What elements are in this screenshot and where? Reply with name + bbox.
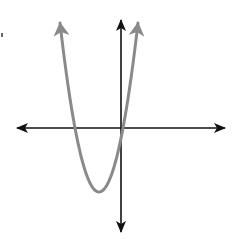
parabola-graph [0,0,240,239]
parabola-curve [60,23,138,192]
